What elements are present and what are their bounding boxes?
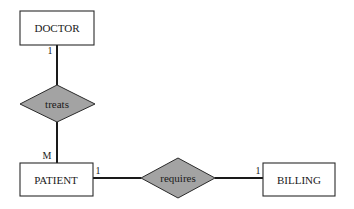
cardinality-doctor-treats: 1 (48, 46, 53, 56)
entity-billing-label: BILLING (277, 175, 321, 186)
cardinality-patient-requires: 1 (96, 166, 101, 176)
relationship-treats-label: treats (45, 99, 69, 110)
entity-patient-label: PATIENT (34, 175, 78, 186)
relationship-requires-label: requires (160, 173, 195, 184)
cardinality-requires-billing: 1 (256, 166, 261, 176)
entity-doctor-label: DOCTOR (34, 23, 79, 34)
cardinality-treats-patient: M (43, 151, 52, 161)
